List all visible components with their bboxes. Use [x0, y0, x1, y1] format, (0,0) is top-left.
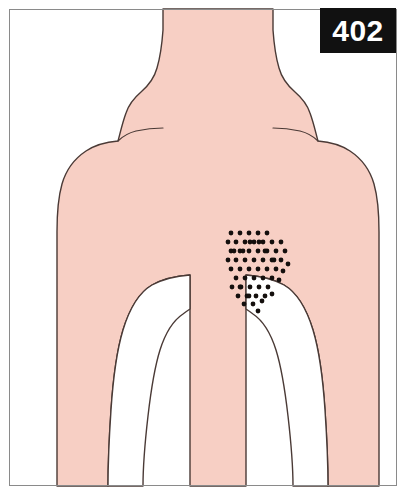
pain-dot — [256, 231, 261, 236]
pain-dot — [257, 285, 262, 290]
pain-dot — [234, 276, 239, 281]
pain-dot — [263, 249, 268, 254]
anatomy-illustration — [0, 0, 407, 496]
pain-dot — [265, 231, 270, 236]
pain-dot — [234, 240, 239, 245]
pain-dot — [270, 240, 275, 245]
pain-dot — [270, 276, 275, 281]
pain-dot — [251, 302, 256, 307]
pain-dot — [252, 276, 257, 281]
pain-dot — [274, 267, 279, 272]
pain-dot — [286, 262, 291, 267]
pain-dot — [247, 249, 252, 254]
pain-dot — [256, 249, 261, 254]
pain-dot — [242, 302, 247, 307]
figure-container: 402 — [0, 0, 407, 496]
pain-dot — [260, 299, 265, 304]
pain-dot — [261, 276, 266, 281]
pain-dot — [279, 240, 284, 245]
pain-dot — [243, 240, 248, 245]
pain-dot — [257, 240, 262, 245]
pain-dot — [241, 249, 246, 254]
pain-dot — [254, 294, 259, 299]
pain-dot — [270, 292, 275, 297]
pain-dot — [238, 285, 243, 290]
pain-dot — [266, 285, 271, 290]
pain-dot — [238, 267, 243, 272]
pain-dot — [263, 294, 268, 299]
pain-dot — [252, 258, 257, 263]
pain-dot — [248, 285, 253, 290]
pain-dot — [261, 258, 266, 263]
pain-dot — [234, 258, 239, 263]
pain-dot — [274, 249, 279, 254]
pain-dot — [247, 294, 252, 299]
pain-dot — [229, 267, 234, 272]
pain-dot — [236, 294, 241, 299]
pain-dot — [283, 249, 288, 254]
pain-dot — [272, 258, 277, 263]
pain-dot — [226, 258, 231, 263]
pain-dot — [277, 278, 282, 283]
pain-dot — [243, 276, 248, 281]
pain-dot — [243, 258, 248, 263]
pain-dot — [230, 285, 235, 290]
pain-dot — [229, 231, 234, 236]
figure-number-badge: 402 — [320, 8, 396, 53]
pain-dot — [279, 258, 284, 263]
pain-dot — [248, 240, 253, 245]
pain-dot — [226, 240, 231, 245]
pain-dot — [247, 267, 252, 272]
figure-number-text: 402 — [332, 16, 384, 46]
pain-dot — [247, 231, 252, 236]
pain-dot — [232, 249, 237, 254]
pain-dot — [256, 309, 261, 314]
pain-dot — [265, 267, 270, 272]
pain-dot — [256, 267, 261, 272]
pain-dot — [238, 231, 243, 236]
pain-dot — [281, 269, 286, 274]
